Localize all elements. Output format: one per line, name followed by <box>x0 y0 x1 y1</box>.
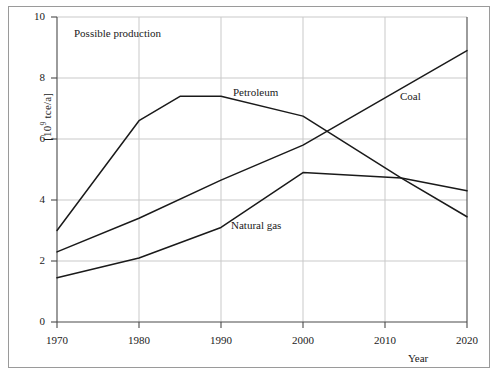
y-tick-label-10: 10 <box>25 10 45 22</box>
x-tick-label-1980: 1980 <box>119 334 159 346</box>
x-axis-ticks <box>57 322 467 328</box>
chart-annotation-possible-production: Possible production <box>74 27 161 39</box>
series-label-natural-gas: Natural gas <box>231 219 281 231</box>
y-axis-title: [109 tce/a] <box>39 57 53 177</box>
y-tick-label-2: 2 <box>25 254 45 266</box>
y-tick-label-4: 4 <box>25 193 45 205</box>
axis-lines <box>57 17 467 322</box>
x-axis-title: Year <box>408 352 428 364</box>
y-axis-unit: tce/a] <box>41 93 53 122</box>
x-tick-label-2000: 2000 <box>283 334 323 346</box>
x-tick-label-2010: 2010 <box>365 334 405 346</box>
series-label-coal: Coal <box>400 90 421 102</box>
chart-figure: 10 8 6 4 2 0 1970 1980 1990 2000 2010 20… <box>0 0 499 376</box>
x-tick-label-1990: 1990 <box>201 334 241 346</box>
x-tick-label-2020: 2020 <box>447 334 487 346</box>
x-tick-label-1970: 1970 <box>37 334 77 346</box>
series-label-petroleum: Petroleum <box>233 86 278 98</box>
line-chart-plot <box>0 0 499 376</box>
y-tick-label-0: 0 <box>25 315 45 327</box>
grid-vertical <box>139 17 385 322</box>
y-axis-exponent: 9 <box>39 121 48 125</box>
